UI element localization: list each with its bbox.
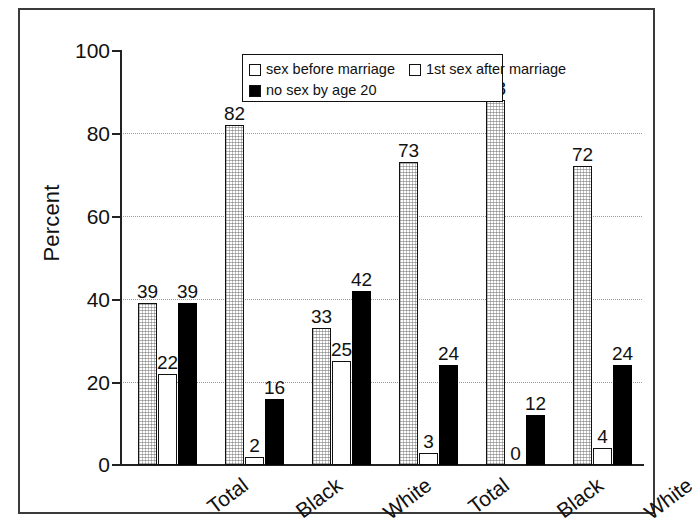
x-category-label-4: Black xyxy=(552,473,607,523)
value-label-5-series1: 4 xyxy=(584,427,621,446)
bar-total-0-series2 xyxy=(178,303,197,465)
y-tickmark-0 xyxy=(112,464,121,466)
legend-label-0: sex before marriage xyxy=(266,62,395,77)
x-category-label-5: White xyxy=(639,473,696,524)
value-label-2-series1: 25 xyxy=(323,340,360,359)
y-tick-label-20: 20 xyxy=(20,372,110,393)
y-tickmark-20 xyxy=(112,382,121,384)
value-label-5-series0: 72 xyxy=(564,145,601,164)
y-tickmark-80 xyxy=(112,133,121,135)
gridline-20 xyxy=(120,382,642,383)
value-label-0-series2: 39 xyxy=(169,282,206,301)
value-label-4-series2: 12 xyxy=(517,394,554,413)
x-category-label-2: White xyxy=(378,473,435,524)
value-label-3-series2: 24 xyxy=(430,344,467,363)
bar-black-1-series1 xyxy=(245,457,264,465)
bar-total-3-series0 xyxy=(399,162,418,465)
bar-white-5-series0 xyxy=(573,166,592,465)
legend-item-2: no sex by age 20 xyxy=(249,83,376,98)
legend-label-2: no sex by age 20 xyxy=(266,83,376,98)
value-label-5-series2: 24 xyxy=(604,344,641,363)
value-label-3-series0: 73 xyxy=(390,141,427,160)
figure-caption xyxy=(18,518,658,530)
legend-label-1: 1st sex after marriage xyxy=(426,62,566,77)
legend-swatch-icon-1 xyxy=(409,64,421,76)
legend-item-1: 1st sex after marriage xyxy=(409,62,566,77)
bar-white-2-series1 xyxy=(332,361,351,465)
value-label-0-series1: 22 xyxy=(149,353,186,372)
gridline-60 xyxy=(120,216,642,217)
bar-total-0-series1 xyxy=(158,374,177,465)
bar-white-5-series2 xyxy=(613,365,632,465)
value-label-1-series1: 2 xyxy=(236,436,273,455)
value-label-3-series1: 3 xyxy=(410,432,447,451)
legend-swatch-icon-2 xyxy=(249,85,261,97)
y-tick-label-40: 40 xyxy=(20,289,110,310)
y-tickmark-100 xyxy=(112,50,121,52)
gridline-80 xyxy=(120,133,642,134)
x-axis-line xyxy=(120,464,644,466)
chart-legend: sex before marriage 1st sex after marria… xyxy=(242,54,503,102)
bar-black-4-series0 xyxy=(486,100,505,465)
x-category-label-3: Total xyxy=(463,473,513,519)
value-label-0-series0: 39 xyxy=(129,282,166,301)
value-label-4-series1: 0 xyxy=(497,444,534,463)
y-tickmark-60 xyxy=(112,216,121,218)
y-tick-label-60: 60 xyxy=(20,206,110,227)
y-tick-label-0: 0 xyxy=(20,454,110,475)
bar-black-1-series2 xyxy=(265,399,284,465)
y-tickmark-40 xyxy=(112,299,121,301)
x-category-label-0: Total xyxy=(202,473,252,519)
value-label-2-series0: 33 xyxy=(303,307,340,326)
chart-frame: Percent 100 80 60 40 20 0 392 xyxy=(18,8,655,514)
bar-white-2-series2 xyxy=(352,291,371,465)
bar-total-0-series0 xyxy=(138,303,157,465)
x-category-label-1: Black xyxy=(291,473,346,523)
value-label-2-series2: 42 xyxy=(343,270,380,289)
legend-item-0: sex before marriage xyxy=(249,62,395,77)
bar-white-5-series1 xyxy=(593,448,612,465)
legend-swatch-icon-0 xyxy=(249,64,261,76)
bar-total-3-series1 xyxy=(419,453,438,465)
y-tick-label-100: 100 xyxy=(20,40,110,61)
value-label-1-series2: 16 xyxy=(256,378,293,397)
y-axis-line xyxy=(120,50,122,466)
bar-black-1-series0 xyxy=(225,125,244,465)
y-tick-label-80: 80 xyxy=(20,123,110,144)
value-label-1-series0: 82 xyxy=(216,104,253,123)
